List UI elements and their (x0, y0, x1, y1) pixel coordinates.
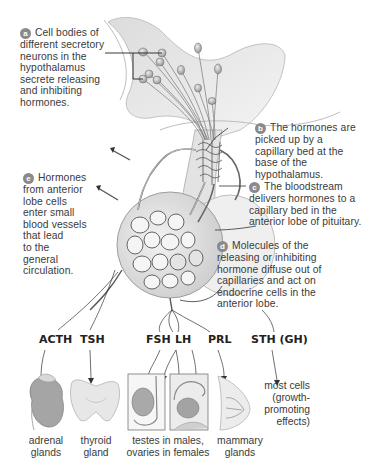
hormone-fsh: FSH (146, 333, 171, 346)
target-thyroid-gland: thyroid gland (74, 435, 118, 459)
ovaries-illustration (170, 374, 208, 430)
hormone-lh: LH (175, 333, 191, 346)
testes-illustration (128, 374, 165, 430)
target-mammary-glands: mammary glands (214, 435, 266, 459)
hormone-acth: ACTH (39, 333, 72, 346)
callout-a: aCell bodies of different secretory neur… (20, 27, 104, 109)
hormone-tsh: TSH (80, 333, 105, 346)
callout-badge-b: b (255, 123, 266, 134)
target-adrenal-glands: adrenal glands (24, 435, 68, 459)
callout-d: dMolecules of the releasing or inhibitin… (217, 240, 321, 310)
callout-badge-d: d (217, 241, 228, 252)
thyroid-gland-illustration (70, 380, 119, 421)
callout-c: cThe bloodstream delivers hormones to a … (249, 181, 361, 228)
hormone-sth-gh: STH (GH) (251, 333, 308, 346)
mammary-gland-illustration (218, 376, 250, 430)
callout-badge-e: e (23, 173, 34, 184)
callout-b: bThe hormones are picked up by a capilla… (255, 122, 365, 180)
adrenal-gland-illustration (30, 374, 63, 430)
callout-e: eHormones from anterior lobe cells enter… (23, 172, 87, 277)
callout-badge-a: a (20, 28, 31, 39)
target-testes-ovaries: testes in males, ovaries in females (120, 435, 216, 459)
callout-badge-c: c (249, 182, 260, 193)
target-most-cells: most cells (growth- promoting effects) (254, 380, 310, 428)
hormone-prl: PRL (208, 333, 232, 346)
